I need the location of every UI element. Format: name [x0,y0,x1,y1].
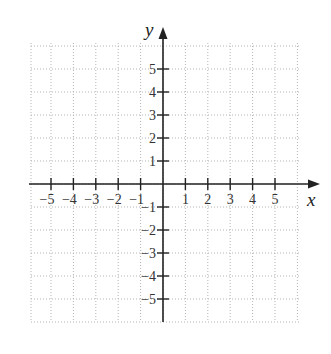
y-tick-label: −5 [141,292,156,307]
y-tick-label: −2 [141,223,156,238]
x-tick-label: −3 [84,192,99,207]
axes [29,27,320,322]
x-axis-label: x [306,189,316,210]
x-tick-label: 1 [182,192,189,207]
x-tick-label: −5 [40,192,55,207]
x-axis-arrow-icon [308,180,320,189]
y-tick-label: 3 [149,108,156,123]
x-tick-label: 4 [249,192,256,207]
x-tick-label: −2 [107,192,122,207]
y-tick-label: 1 [149,154,156,169]
y-tick-label: 2 [149,131,156,146]
y-tick-label: −3 [141,246,156,261]
x-tick-label: 2 [204,192,211,207]
grid [31,43,300,322]
y-tick-label: 4 [149,85,156,100]
x-tick-label: −4 [62,192,77,207]
y-tick-label: −4 [141,269,156,284]
x-tick-label: 3 [227,192,234,207]
y-tick-label: −1 [141,200,156,215]
x-tick-label: 5 [272,192,279,207]
coordinate-plane: −5−4−3−2−11234554321−1−2−3−4−5 x y [0,0,331,354]
y-axis-label: y [143,19,154,40]
y-tick-label: 5 [149,62,156,77]
y-axis-arrow-icon [159,27,168,39]
